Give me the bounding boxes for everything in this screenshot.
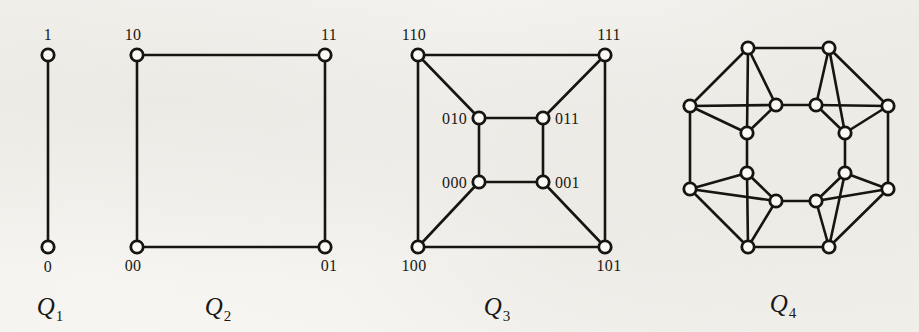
graph-vertex [473,112,485,124]
edge-group-q4 [690,48,888,247]
graph-vertex [473,176,485,188]
vertex-label: 100 [402,257,427,274]
caption-subscript: 2 [224,308,232,324]
graph-edge [748,201,776,247]
hypercube-figure-svg: 10Q110110001Q2110111100101010011000001Q3… [0,0,919,332]
graph-vertex [684,183,696,195]
graph-vertex [839,127,851,139]
graph-edge [816,48,829,105]
graph-edge [747,48,748,133]
graph-q1: 10Q1 [37,26,64,324]
graph-vertex [131,241,143,253]
graph-vertex [599,241,611,253]
vertex-label: 001 [555,174,580,191]
caption-letter: Q [205,293,223,320]
vertex-label: 10 [125,26,142,43]
caption-subscript: 3 [503,308,511,324]
caption-letter: Q [37,293,55,320]
graph-vertex [131,49,143,61]
graph-vertex [742,241,754,253]
graph-edge [418,182,479,247]
graph-vertex [319,241,331,253]
vertex-label: 01 [321,257,338,274]
vertex-label: 11 [321,26,337,43]
vertex-label: 101 [597,257,622,274]
graph-vertex [742,42,754,54]
graph-vertex [42,241,54,253]
graph-edge [690,48,748,106]
graph-vertex [599,49,611,61]
figure-page: 10Q110110001Q2110111100101010011000001Q3… [0,0,919,332]
graph-q2: 10110001Q2 [125,26,338,324]
graph-q4: Q4 [684,42,894,321]
graph-vertex [319,49,331,61]
graph-caption-q4: Q4 [770,290,797,321]
graph-edge [690,105,776,106]
graph-vertex [770,99,782,111]
edge-group-q3 [418,55,605,247]
vertex-label: 111 [597,26,621,43]
graph-vertex [741,167,753,179]
graph-vertex [412,49,424,61]
graph-vertex [823,241,835,253]
caption-subscript: 1 [56,308,64,324]
graph-caption-q2: Q2 [205,293,232,324]
graph-caption-q3: Q3 [484,293,511,324]
graph-vertex [537,176,549,188]
vertex-label: 0 [44,258,52,275]
caption-letter: Q [484,293,502,320]
graph-vertex [741,127,753,139]
vertex-group-q2: 10110001 [125,26,338,274]
vertex-label: 1 [44,26,52,43]
graph-edge [418,55,479,118]
graph-q3: 110111100101010011000001Q3 [402,26,622,324]
vertex-label: 010 [442,110,467,127]
graph-edge [816,105,888,106]
graph-edge [845,106,888,133]
vertex-group-q4 [684,42,894,253]
graph-edge [543,55,605,118]
graph-edge [690,189,776,201]
edge-group-q2 [137,55,325,247]
graph-vertex [882,183,894,195]
graph-edge [690,173,747,189]
graph-vertex [537,112,549,124]
graph-caption-q1: Q1 [37,293,64,324]
vertex-label: 110 [402,26,426,43]
graph-vertex [882,100,894,112]
caption-subscript: 4 [789,305,797,321]
graphs-root: 10Q110110001Q2110111100101010011000001Q3… [37,26,894,324]
graph-edge [748,48,776,105]
graph-vertex [770,195,782,207]
graph-vertex [810,99,822,111]
graph-edge [543,182,605,247]
caption-letter: Q [770,290,788,317]
vertex-label: 00 [125,257,142,274]
vertex-group-q3: 110111100101010011000001 [402,26,622,274]
vertex-label: 011 [555,110,579,127]
graph-vertex [42,49,54,61]
graph-edge [829,173,845,247]
graph-edge [747,173,748,247]
graph-vertex [839,167,851,179]
graph-vertex [684,100,696,112]
graph-edge [690,189,748,247]
graph-vertex [823,42,835,54]
graph-vertex [810,195,822,207]
vertex-label: 000 [442,174,467,191]
graph-vertex [412,241,424,253]
graph-edge [690,106,747,133]
